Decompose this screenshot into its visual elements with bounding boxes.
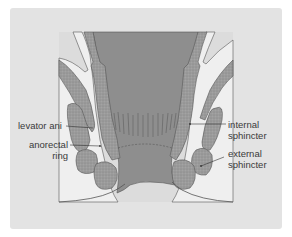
label-anorectal-ring-line2: ring [26,150,68,161]
label-external-sphincter-line1: external [228,148,267,159]
left-external-sphincter-subcutaneous [94,162,117,190]
label-anorectal-ring-line1: anorectal [26,139,68,150]
label-internal-sphincter-line2: sphincter [228,130,267,141]
label-anorectal-ring: anorectal ring [26,139,68,161]
label-external-sphincter: external sphincter [228,148,267,170]
label-external-sphincter-line2: sphincter [228,159,267,170]
label-internal-sphincter-line1: internal [228,119,267,130]
label-levator-ani: levator ani [18,120,62,131]
label-internal-sphincter: internal sphincter [228,119,267,141]
